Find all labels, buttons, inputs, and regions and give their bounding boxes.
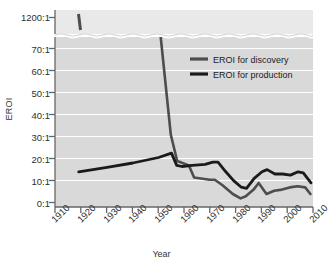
x-axis-title: Year [0, 249, 323, 259]
legend-label-production: EROI for production [213, 70, 293, 80]
y-axis-ticks [49, 18, 55, 203]
series-discovery-upper-segment [79, 14, 81, 30]
upper-panel-background [55, 10, 313, 34]
legend-label-discovery: EROI for discovery [213, 55, 289, 65]
